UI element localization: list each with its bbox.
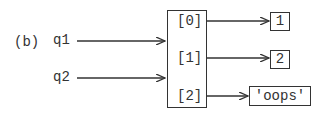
slot-index-1: [1] [177,50,202,66]
slot-index-2: [2] [177,88,202,104]
diagram-label: (b) [14,34,39,50]
value-box-1: 1 [270,12,290,31]
variable-q1: q1 [53,32,70,48]
slot-index-0: [0] [177,13,202,29]
value-box-oops: 'oops' [249,86,311,106]
value-box-2: 2 [270,50,290,69]
variable-q2: q2 [53,69,70,85]
